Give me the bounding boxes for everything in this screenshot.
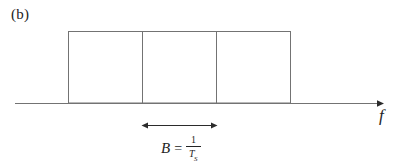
spectral-blocks (69, 32, 291, 104)
formula-numerator: 1 (189, 135, 198, 146)
formula-lhs-symbol: B (161, 140, 171, 157)
spectral-block-3 (217, 32, 291, 104)
formula-denominator: TS (187, 147, 200, 164)
spectral-block-2 (143, 32, 217, 104)
spectral-block-1 (69, 32, 143, 104)
dimension-arrowhead-right-icon (211, 122, 218, 128)
x-axis-variable-label: f (379, 106, 384, 126)
bandwidth-formula: B = 1 TS (139, 133, 223, 164)
formula-fraction: 1 TS (186, 135, 201, 164)
figure-container: (b) f B = 1 TS (0, 0, 397, 166)
bandwidth-dimension-arrow (142, 122, 218, 128)
formula-equals-sign: = (171, 141, 186, 157)
formula-denominator-subscript: S (194, 155, 198, 163)
dimension-arrowhead-left-icon (142, 122, 149, 128)
